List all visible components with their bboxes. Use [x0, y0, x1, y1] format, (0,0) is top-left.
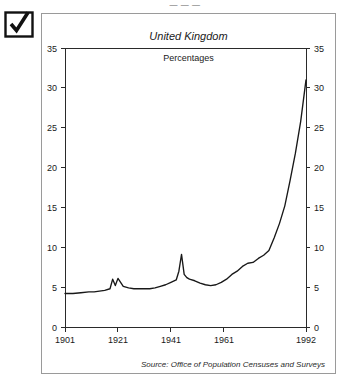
y-axis-left: 05101520253035 — [47, 44, 65, 333]
y-axis-right: 05101520253035 — [306, 44, 324, 333]
y-tick-label-left: 25 — [47, 123, 57, 133]
y-tick-label-left: 35 — [47, 44, 57, 54]
data-series — [65, 80, 306, 294]
y-tick-label-left: 30 — [47, 83, 57, 93]
x-tick-label: 1992 — [296, 335, 316, 345]
x-tick-label: 1901 — [55, 335, 75, 345]
x-tick-label: 1921 — [108, 335, 128, 345]
series-line-united-kingdom — [65, 80, 306, 294]
chart-page: — — — United Kingdom Percentages 0510152… — [0, 0, 343, 384]
y-tick-label-right: 35 — [314, 44, 324, 54]
y-tick-label-right: 15 — [314, 203, 324, 213]
y-tick-label-right: 30 — [314, 83, 324, 93]
y-tick-label-right: 0 — [314, 323, 319, 333]
y-tick-label-left: 10 — [47, 243, 57, 253]
y-tick-label-left: 0 — [52, 323, 57, 333]
y-tick-label-right: 20 — [314, 163, 324, 173]
y-tick-label-left: 5 — [52, 283, 57, 293]
line-chart-plot: 05101520253035 05101520253035 1901192119… — [0, 0, 343, 384]
x-axis: 19011921194119611992 — [55, 48, 316, 345]
y-tick-label-right: 5 — [314, 283, 319, 293]
x-tick-label: 1961 — [214, 335, 234, 345]
x-tick-label: 1941 — [161, 335, 181, 345]
source-note: Source: Office of Population Censuses an… — [41, 360, 331, 369]
y-tick-label-right: 25 — [314, 123, 324, 133]
y-tick-label-left: 20 — [47, 163, 57, 173]
y-tick-label-right: 10 — [314, 243, 324, 253]
y-tick-label-left: 15 — [47, 203, 57, 213]
